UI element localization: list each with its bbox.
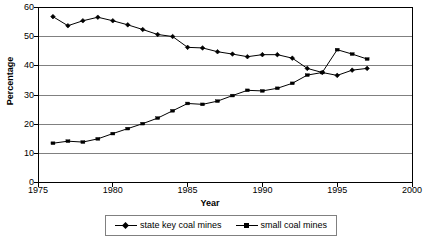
x-axis-tick-label: 2000 — [392, 186, 427, 195]
x-axis-tick-label: 1980 — [93, 186, 133, 195]
x-axis-tick-label: 1985 — [168, 186, 208, 195]
series-small-coal-mines — [51, 48, 369, 144]
x-axis-title: Year — [0, 198, 420, 208]
x-axis-tick-label: 1990 — [242, 186, 282, 195]
data-series-layer — [51, 14, 370, 144]
legend-marker-diamond-icon — [115, 221, 137, 230]
legend-label: small coal mines — [261, 221, 328, 230]
y-axis-tickmarks — [34, 7, 38, 182]
legend-marker-square-icon — [236, 221, 258, 230]
series-state-key-coal-mines — [51, 14, 370, 77]
x-axis-tick-label: 1975 — [18, 186, 58, 195]
chart-legend: state key coal mines small coal mines — [105, 215, 337, 236]
legend-item-small-coal-mines[interactable]: small coal mines — [236, 221, 328, 230]
x-axis-tick-label: 1995 — [317, 186, 357, 195]
legend-label: state key coal mines — [140, 221, 222, 230]
legend-item-state-key-coal-mines[interactable]: state key coal mines — [115, 221, 222, 230]
gridlines — [38, 7, 412, 153]
